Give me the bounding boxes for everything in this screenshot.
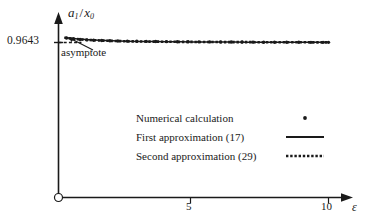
data-point — [100, 39, 103, 42]
data-point — [154, 40, 157, 43]
x-axis-tick-label-5: 5 — [186, 201, 192, 212]
legend-entry-numerical-calculation: Numerical calculation — [136, 111, 326, 130]
origin-marker — [55, 194, 63, 202]
data-point — [321, 41, 324, 44]
y-title-denominator-subscript: 0 — [90, 12, 94, 21]
data-point — [85, 38, 88, 41]
data-point — [285, 41, 288, 44]
data-point — [208, 40, 211, 43]
data-point — [186, 40, 189, 43]
y-axis-tick-label: 0.9643 — [7, 35, 39, 47]
legend-label-second-approximation: Second approximation (29) — [136, 150, 256, 162]
data-point — [197, 40, 200, 43]
legend-marker-dotted-line — [284, 149, 326, 163]
legend-entry-second-approximation: Second approximation (29) — [136, 149, 326, 168]
data-point — [262, 41, 265, 44]
data-point — [116, 39, 119, 42]
data-point — [327, 41, 330, 44]
data-point — [240, 40, 243, 43]
y-axis — [54, 12, 63, 198]
legend-marker-solid-line — [284, 130, 326, 144]
data-point — [176, 40, 179, 43]
data-point — [108, 39, 111, 42]
data-point — [65, 36, 68, 39]
data-point — [251, 40, 254, 43]
legend-marker-dot — [284, 111, 326, 125]
data-point — [92, 39, 95, 42]
data-point — [230, 40, 233, 43]
data-point — [273, 41, 276, 44]
data-point — [135, 40, 138, 43]
data-point — [309, 41, 312, 44]
y-axis-title: a1/x0 — [68, 6, 94, 21]
x-axis-title: ε — [352, 201, 357, 213]
figure-plot-a1-over-x0: 0.9643 a1/x0 asymptote 5 10 ε Numerical … — [0, 0, 369, 224]
legend: Numerical calculation First approximatio… — [136, 111, 326, 168]
data-point — [145, 40, 148, 43]
y-title-numerator-subscript: 1 — [75, 12, 79, 21]
data-point — [78, 38, 81, 41]
data-point — [297, 41, 300, 44]
legend-entry-first-approximation: First approximation (17) — [136, 130, 326, 149]
data-point — [219, 40, 222, 43]
legend-label-first-approximation: First approximation (17) — [136, 131, 244, 143]
asymptote-annotation-label: asymptote — [61, 47, 106, 58]
data-point — [126, 39, 129, 42]
x-axis-tick-label-10: 10 — [321, 201, 332, 212]
x-axis — [59, 193, 354, 202]
legend-label-numerical-calculation: Numerical calculation — [136, 112, 233, 124]
data-point — [165, 40, 168, 43]
